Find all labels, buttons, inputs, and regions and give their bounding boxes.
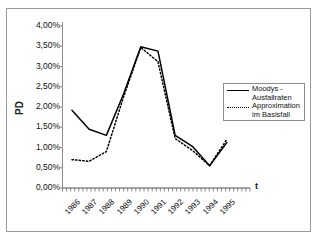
legend-swatch-dotted-line-icon <box>227 107 249 110</box>
x-axis-title: t <box>255 181 258 191</box>
legend-item-approximation: Approximation im Basisfall <box>227 103 305 120</box>
legend-swatch-solid-line-icon <box>227 90 249 93</box>
series-line-moodys <box>72 47 227 166</box>
legend-item-label: Moodys - Ausfallraten <box>252 85 306 102</box>
chart-legend: Moodys - Ausfallraten Approximation im B… <box>223 83 305 121</box>
chart-figure: PD 4,00%3,50%3,00%2,50%2,00%1,50%1,00%0,… <box>0 0 320 240</box>
legend-item-label: Approximation im Basisfall <box>252 102 306 119</box>
series-line-approximation <box>72 47 227 165</box>
